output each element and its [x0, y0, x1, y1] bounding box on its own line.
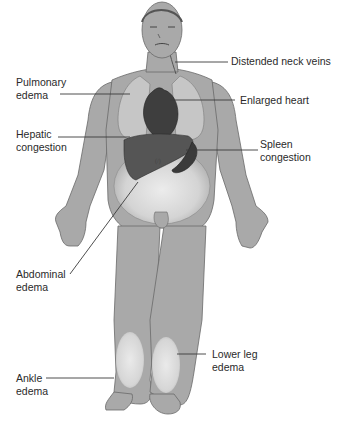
right-arm — [212, 82, 268, 248]
left-foot — [105, 392, 132, 410]
label-spleen-congestion: Spleen congestion — [260, 138, 311, 163]
svg-text:(/): (/) — [155, 158, 161, 165]
torso: (/) — [106, 68, 218, 228]
label-lower-leg-edema: Lower leg edema — [212, 348, 258, 373]
label-ankle-edema: Ankle edema — [16, 372, 48, 397]
right-foot — [150, 394, 181, 414]
label-abdominal-edema: Abdominal edema — [16, 268, 66, 293]
left-lower-leg-edema — [116, 332, 144, 388]
label-enlarged-heart: Enlarged heart — [240, 94, 309, 107]
heart-failure-diagram: (/) — [0, 0, 339, 425]
right-lower-leg-edema — [152, 337, 180, 393]
left-arm — [55, 82, 112, 246]
label-pulmonary-edema: Pulmonary edema — [16, 76, 66, 101]
head-and-neck — [142, 2, 182, 74]
label-hepatic-congestion: Hepatic congestion — [16, 128, 67, 153]
label-distended-neck-veins: Distended neck veins — [231, 55, 331, 68]
